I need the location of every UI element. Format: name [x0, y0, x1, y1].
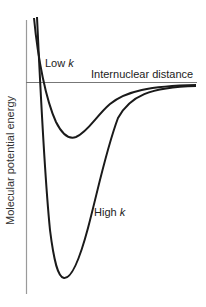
- high-k-label: High k: [94, 206, 125, 218]
- diagram-graphics: [0, 0, 206, 307]
- high-k-label-var: k: [120, 206, 126, 218]
- low-k-label-text: Low: [45, 57, 68, 69]
- y-axis-label: Molecular potential energy: [4, 96, 16, 225]
- high-k-label-text: High: [94, 206, 120, 218]
- x-axis-label: Internuclear distance: [91, 68, 193, 80]
- low-k-label-var: k: [68, 57, 74, 69]
- low-k-label: Low k: [45, 57, 74, 69]
